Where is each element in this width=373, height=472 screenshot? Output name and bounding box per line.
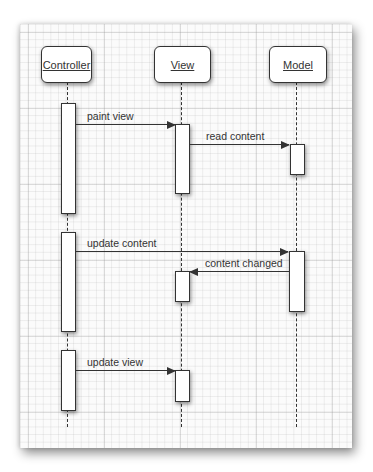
view-activation-1: [175, 124, 190, 194]
controller-activation-3: [61, 350, 76, 411]
controller-activation-1: [61, 103, 76, 214]
model-activation-2: [289, 251, 305, 312]
view-activation-3: [175, 370, 190, 402]
participant-model: Model: [269, 46, 327, 83]
message-label-paint-view: paint view: [87, 110, 134, 122]
controller-activation-2: [61, 232, 76, 332]
view-activation-2: [175, 271, 190, 302]
message-arrow-update-content: [76, 251, 288, 252]
message-label-update-content: update content: [87, 237, 156, 249]
message-label-update-view: update view: [87, 356, 143, 368]
participant-controller: Controller: [41, 46, 92, 83]
message-label-read-content: read content: [206, 130, 264, 142]
model-activation-1: [290, 144, 305, 175]
participant-label: Model: [283, 59, 313, 71]
participant-label: Controller: [43, 59, 91, 71]
message-label-content-changed: content changed: [205, 257, 283, 269]
message-arrow-update-view: [76, 370, 175, 371]
participant-label: View: [171, 59, 195, 71]
message-arrow-content-changed: [190, 271, 289, 272]
message-arrow-paint-view: [76, 124, 175, 125]
participant-view: View: [154, 46, 211, 83]
message-arrow-read-content: [190, 144, 289, 145]
